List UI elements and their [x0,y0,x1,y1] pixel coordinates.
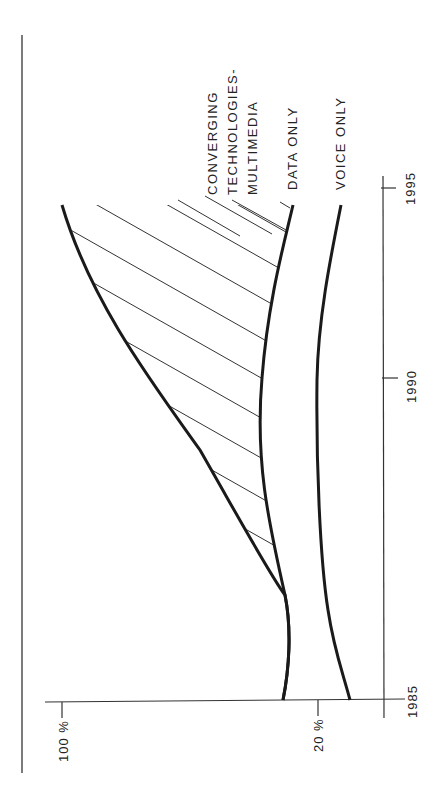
time-axis [383,176,384,718]
series-voice-only [317,205,350,700]
tick-label-100: 100 % [56,720,71,762]
tick-label-1985: 1985 [405,685,420,718]
label-data-only: DATA ONLY [285,106,300,190]
series-converging [62,205,289,700]
label-converging-2: TECHNOLOGIES- [225,68,240,195]
tick-label-20: 20 % [311,718,326,752]
series-data-only [260,205,293,700]
tick-label-1990: 1990 [404,370,419,403]
label-converging-1: CONVERGING [205,91,220,195]
label-voice-only: VOICE ONLY [333,96,348,190]
chart: CONVERGING TECHNOLOGIES- MULTIMEDIA DATA… [0,0,447,808]
leader-converging-2 [205,196,272,234]
leader-data-only [280,202,290,208]
leader-converging-1 [178,200,240,236]
leader-converging-3 [232,200,286,230]
label-converging-3: MULTIMEDIA [245,101,260,195]
tick-label-1995: 1995 [403,172,418,205]
